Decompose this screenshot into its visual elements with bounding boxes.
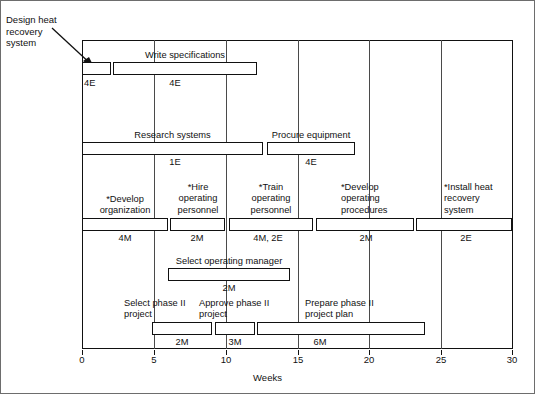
task-bar[interactable] bbox=[168, 268, 290, 281]
axis-title: Weeks bbox=[0, 372, 535, 383]
task-bar[interactable] bbox=[229, 218, 313, 231]
task-duration: 4M, 2E bbox=[242, 233, 294, 244]
task-label: *Install heat recovery system bbox=[444, 182, 516, 216]
task-label: Research systems bbox=[82, 130, 263, 141]
task-bar[interactable] bbox=[82, 62, 111, 75]
task-bar[interactable] bbox=[113, 62, 257, 75]
task-bar[interactable] bbox=[170, 218, 225, 231]
axis-tick-label: 15 bbox=[286, 354, 310, 365]
task-label: *Develop operating procedures bbox=[341, 182, 407, 216]
task-label: *Hire operating personnel bbox=[170, 182, 226, 216]
task-label: Select operating manager bbox=[162, 256, 296, 267]
task-duration: 4E bbox=[82, 78, 114, 89]
task-bar[interactable] bbox=[152, 322, 212, 335]
task-duration: 2M bbox=[209, 283, 249, 294]
task-duration: 6M bbox=[300, 337, 340, 348]
task-duration: 4E bbox=[155, 78, 195, 89]
task-bar[interactable] bbox=[82, 142, 263, 155]
task-bar[interactable] bbox=[82, 218, 168, 231]
axis-tick-label: 30 bbox=[500, 354, 524, 365]
task-bar[interactable] bbox=[257, 322, 425, 335]
axis-tick-label: 25 bbox=[429, 354, 453, 365]
axis-tick-label: 5 bbox=[142, 354, 166, 365]
task-duration: 2M bbox=[346, 233, 386, 244]
task-bar[interactable] bbox=[416, 218, 512, 231]
task-label: Approve phase II project bbox=[199, 298, 299, 321]
axis-tick-label: 20 bbox=[357, 354, 381, 365]
gridline-25 bbox=[441, 40, 442, 349]
task-label: Prepare phase II project plan bbox=[305, 298, 405, 321]
task-duration: 2M bbox=[177, 233, 217, 244]
task-bar[interactable] bbox=[267, 142, 355, 155]
axis-tick-label: 10 bbox=[214, 354, 238, 365]
task-bar[interactable] bbox=[215, 322, 255, 335]
task-bar[interactable] bbox=[316, 218, 414, 231]
task-duration: 4M bbox=[105, 233, 145, 244]
axis-tick-label: 0 bbox=[70, 354, 94, 365]
task-duration: 1E bbox=[155, 157, 195, 168]
gantt-chart: Design heat recovery system 4E Write spe… bbox=[0, 0, 535, 394]
task-label: *Train operating personnel bbox=[242, 182, 300, 216]
task-label: Write specifications bbox=[113, 50, 257, 61]
task-label: Procure equipment bbox=[262, 130, 360, 141]
task-duration: 2M bbox=[162, 337, 202, 348]
task-duration: 4E bbox=[291, 157, 331, 168]
task-label: *Develop organization bbox=[82, 194, 168, 217]
task-duration: 2E bbox=[446, 233, 486, 244]
task-duration: 3M bbox=[215, 337, 255, 348]
